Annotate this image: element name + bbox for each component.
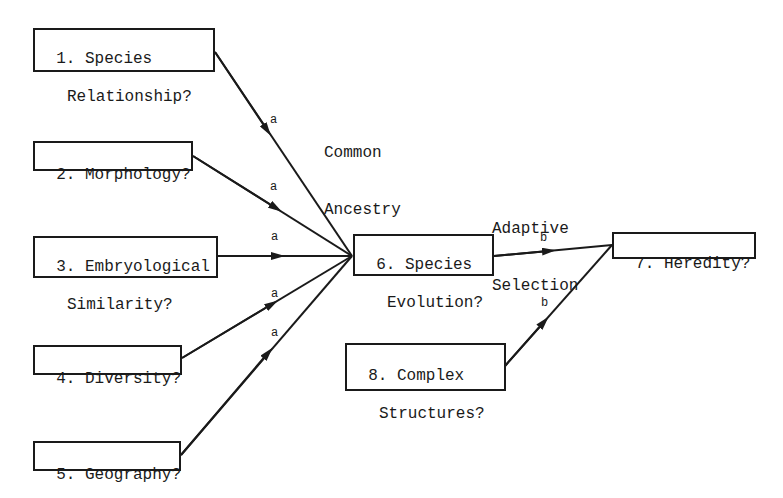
node-1-line2: Relationship? [37,88,211,107]
node-2-line1: 2. Morphology? [56,166,190,184]
label-adaptive-selection: Adaptive Selection [492,182,578,315]
common-ancestry-line1: Common [324,144,401,163]
edge-label-1-to-6: a [270,114,277,126]
node-3-line2: Similarity? [37,296,214,315]
arrowhead-5-to-6 [181,353,268,455]
node-embryological-similarity: 3. Embryological Similarity? [33,236,218,278]
node-4-line1: 4. Diversity? [56,370,181,388]
adaptive-selection-line2: Selection [492,277,578,296]
node-6-line2: Evolution? [357,294,490,313]
edge-label-4-to-6: a [271,288,278,300]
edge-label-6-to-7: b [540,232,547,244]
node-3-line1: 3. Embryological [56,258,210,276]
node-heredity: 7. Heredity? [612,232,756,259]
arrowhead-8-to-7 [505,322,544,366]
node-8-line2: Structures? [349,405,502,424]
node-morphology: 2. Morphology? [33,141,193,171]
node-5-line1: 5. Geography? [56,466,181,484]
node-1-line1: 1. Species [56,50,152,68]
node-species-evolution: 6. Species Evolution? [353,234,494,276]
edge-label-5-to-6: a [271,327,278,339]
common-ancestry-line2: Ancestry [324,201,401,220]
edge-label-8-to-7: b [541,297,548,309]
edge-label-2-to-6: a [270,181,277,193]
edge-label-3-to-6: a [271,231,278,243]
node-complex-structures: 8. Complex Structures? [345,343,506,391]
node-6-line1: 6. Species [376,256,472,274]
node-diversity: 4. Diversity? [33,345,182,375]
node-7-line1: 7. Heredity? [635,255,750,273]
node-species-relationship: 1. Species Relationship? [33,28,215,72]
arrowhead-2-to-6 [193,156,276,208]
adaptive-selection-line1: Adaptive [492,220,578,239]
node-geography: 5. Geography? [33,441,181,471]
node-8-line1: 8. Complex [368,367,464,385]
label-common-ancestry: Common Ancestry [324,106,401,239]
arrowhead-1-to-6 [215,52,267,130]
